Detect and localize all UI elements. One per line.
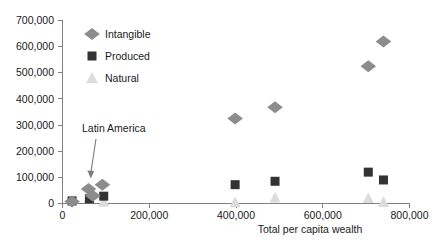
legend-marker-natural: [86, 72, 98, 83]
legend-label-produced: Produced: [105, 50, 150, 62]
legend-marker-intangible: [84, 28, 100, 40]
data-point-produced: [364, 168, 373, 177]
x-tick-label: 400,000: [217, 209, 255, 221]
data-point-intangible: [227, 113, 243, 125]
y-axis: 0100,000200,000300,000400,000500,000600,…: [16, 14, 62, 209]
data-point-produced: [231, 180, 240, 189]
y-tick-label: 300,000: [16, 119, 54, 131]
data-point-produced: [271, 177, 280, 186]
chart-canvas: 0100,000200,000300,000400,000500,000600,…: [0, 0, 447, 250]
data-point-intangible: [95, 179, 111, 191]
annotation-arrow-head: [87, 170, 94, 178]
y-tick-label: 500,000: [16, 66, 54, 78]
annotation-label: Latin America: [82, 122, 146, 134]
x-tick-label: 800,000: [391, 209, 429, 221]
data-point-intangible: [376, 35, 392, 47]
y-tick-label: 200,000: [16, 145, 54, 157]
annotation-latin-america: Latin America: [82, 122, 146, 178]
y-tick-label: 400,000: [16, 93, 54, 105]
data-point-natural: [269, 192, 280, 203]
legend-marker-produced: [88, 52, 97, 61]
x-tick-label: 200,000: [130, 209, 168, 221]
legend-item-intangible[interactable]: Intangible: [84, 28, 150, 40]
legend-label-intangible: Intangible: [105, 28, 151, 40]
data-point-intangible: [360, 60, 376, 72]
data-point-natural: [363, 192, 374, 203]
scatter-chart: 0100,000200,000300,000400,000500,000600,…: [0, 0, 447, 250]
series-produced: [68, 168, 388, 206]
series-natural: [66, 192, 389, 207]
y-tick-group: 0100,000200,000300,000400,000500,000600,…: [16, 14, 62, 209]
annotation-arrow-line: [91, 139, 96, 172]
y-tick-label: 600,000: [16, 40, 54, 52]
data-point-natural: [378, 196, 389, 207]
x-axis: 0200,000400,000600,000800,000 Total per …: [60, 204, 429, 236]
x-tick-label: 0: [60, 209, 66, 221]
x-tick-label: 600,000: [304, 209, 342, 221]
legend-item-natural[interactable]: Natural: [86, 72, 139, 84]
y-tick-label: 700,000: [16, 14, 54, 26]
data-point-intangible: [267, 101, 283, 113]
legend-item-produced[interactable]: Produced: [88, 50, 151, 62]
data-point-produced: [99, 192, 108, 201]
data-point-produced: [379, 175, 388, 184]
y-tick-label: 100,000: [16, 171, 54, 183]
y-tick-label: 0: [48, 197, 54, 209]
x-tick-group: 0200,000400,000600,000800,000: [60, 204, 429, 222]
data-point-natural: [230, 197, 241, 208]
legend-label-natural: Natural: [105, 72, 139, 84]
chart-legend: IntangibleProducedNatural: [84, 28, 150, 84]
x-axis-title: Total per capita wealth: [258, 223, 363, 235]
